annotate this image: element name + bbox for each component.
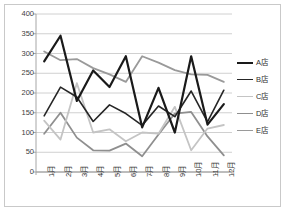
x-tick-label: 10月 (195, 162, 203, 177)
legend-item-C店[interactable]: C店 (237, 88, 283, 105)
legend-label: C店 (256, 92, 268, 101)
legend-swatch-line-icon (237, 79, 253, 80)
x-tick-label: 2月 (65, 166, 73, 177)
x-tick-label: 7月 (146, 166, 154, 177)
x-tick-label: 3月 (81, 166, 89, 177)
x-tick-label: 5月 (114, 166, 122, 177)
legend-label: A店 (256, 58, 268, 67)
legend-item-E店[interactable]: E店 (237, 122, 283, 139)
legend-item-D店[interactable]: D店 (237, 105, 283, 122)
legend-swatch-line-icon (237, 113, 253, 114)
legend-swatch-line-icon (237, 62, 253, 64)
x-tick-label: 9月 (179, 166, 187, 177)
legend-label: B店 (256, 75, 268, 84)
x-tick-label: 1月 (48, 166, 56, 177)
x-tick-label: 12月 (228, 162, 236, 177)
x-tick-label: 4月 (97, 166, 105, 177)
legend-item-A店[interactable]: A店 (237, 54, 283, 71)
legend-swatch-line-icon (237, 96, 253, 97)
chart-legend: A店B店C店D店E店 (237, 54, 283, 139)
x-tick-label: 6月 (130, 166, 138, 177)
legend-item-B店[interactable]: B店 (237, 71, 283, 88)
legend-label: E店 (256, 126, 268, 135)
legend-swatch-line-icon (237, 130, 253, 131)
x-tick-label: 8月 (163, 166, 171, 177)
x-tick-label: 11月 (212, 162, 220, 177)
chart-container: 050100150200250300350400 1月2月3月4月5月6月7月8… (0, 0, 285, 211)
legend-label: D店 (256, 109, 268, 118)
